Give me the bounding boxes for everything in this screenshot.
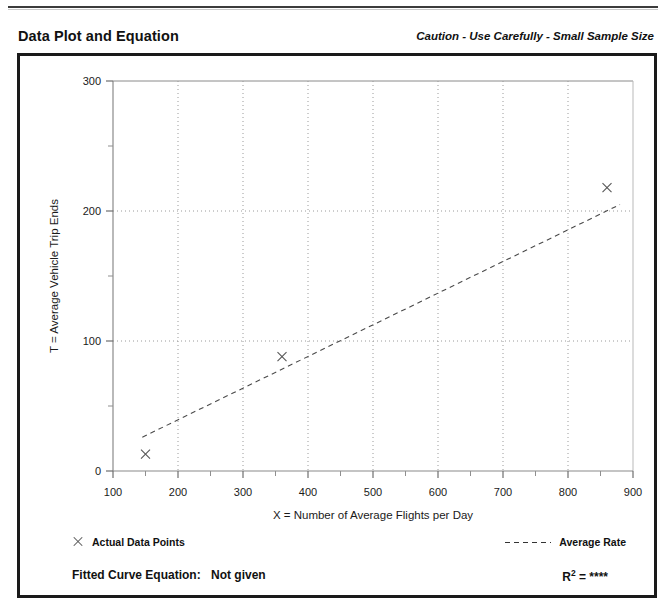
data-point-marker: [603, 183, 612, 192]
x-marker-icon: [72, 536, 84, 548]
y-axis-title: T = Average Vehicle Trip Ends: [48, 199, 60, 353]
x-tick-labels: 100 200 300 400 500 600 700 800 900: [104, 486, 642, 498]
legend-label-actual-data-points: Actual Data Points: [92, 536, 185, 548]
x-tick-label: 800: [559, 486, 577, 498]
data-point-marker: [278, 352, 287, 361]
page-top-rule-shadow: [8, 9, 658, 10]
x-tick-label: 400: [299, 486, 317, 498]
x-tick-label: 500: [364, 486, 382, 498]
x-tick-label: 300: [234, 486, 252, 498]
caution-note: Caution - Use Carefully - Small Sample S…: [416, 30, 654, 42]
fitted-curve-equation: Fitted Curve Equation: Not given: [72, 568, 266, 582]
r-squared-exponent: 2: [571, 568, 576, 578]
y-tick-label: 100: [83, 335, 101, 347]
x-axis-title: X = Number of Average Flights per Day: [273, 509, 473, 521]
data-point-marker: [141, 450, 150, 459]
legend-label-average-rate: Average Rate: [559, 536, 626, 548]
y-tick-label: 200: [83, 205, 101, 217]
x-tick-label: 900: [624, 486, 642, 498]
plot-box: [113, 81, 633, 471]
y-tick-label: 300: [83, 75, 101, 87]
y-tick-labels: 0 100 200 300: [83, 75, 101, 477]
scatter-plot: 0 100 200 300: [20, 56, 654, 595]
chart-frame: 0 100 200 300: [17, 53, 657, 598]
x-tick-label: 700: [494, 486, 512, 498]
fitted-curve-equation-value: Not given: [211, 568, 266, 582]
chart-footer: Fitted Curve Equation: Not given R2 = **…: [20, 564, 654, 594]
r-squared-equals: =: [579, 570, 586, 584]
x-tick-label: 200: [169, 486, 187, 498]
page-title: Data Plot and Equation: [18, 28, 179, 44]
legend-item-actual-data-points: Actual Data Points: [72, 536, 185, 548]
page-canvas: Data Plot and Equation Caution - Use Car…: [0, 0, 666, 607]
fitted-curve-equation-label: Fitted Curve Equation:: [72, 568, 201, 582]
dashed-line-icon: [505, 542, 551, 543]
y-tick-label: 0: [95, 465, 101, 477]
r-squared-value: R2 = ****: [562, 568, 608, 584]
chart-legend: Actual Data Points Average Rate: [20, 532, 654, 560]
trend-line-average-rate: [142, 205, 620, 438]
y-axis: [106, 81, 113, 471]
x-tick-label: 600: [429, 486, 447, 498]
r-squared-stars: ****: [589, 570, 608, 584]
legend-item-average-rate: Average Rate: [505, 536, 626, 548]
x-axis: [113, 471, 633, 478]
r-squared-label: R: [562, 570, 571, 584]
header: Data Plot and Equation Caution - Use Car…: [0, 28, 666, 50]
x-tick-label: 100: [104, 486, 122, 498]
gridlines-vertical: [178, 81, 568, 471]
page-top-rule: [8, 6, 658, 8]
